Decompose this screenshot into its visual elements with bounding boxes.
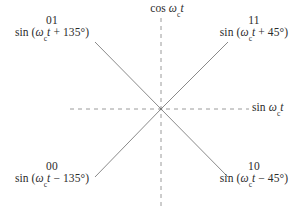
axis-sin-omega: ω <box>269 101 277 113</box>
axis-label-cos-vertical: cos ωct <box>131 2 203 17</box>
expr-11-prefix: sin ( <box>220 26 241 38</box>
quadrant-code-01: 01 <box>4 14 100 26</box>
axis-sin-variable: t <box>280 101 283 113</box>
expr-01-subscript: c <box>44 34 47 43</box>
quadrant-expression-11: sin (ωct + 45°) <box>202 26 306 41</box>
vector-00-line <box>95 109 161 177</box>
expr-10-suffix: − 45°) <box>255 172 288 184</box>
expr-11-subscript: c <box>249 34 252 43</box>
quadrant-code-00: 00 <box>4 160 100 172</box>
vector-01-line <box>95 42 161 109</box>
expr-01-suffix: + 135°) <box>50 26 89 38</box>
quadrant-label-10: 10 sin (ωct − 45°) <box>202 160 306 187</box>
quadrant-label-11: 11 sin (ωct + 45°) <box>202 14 306 41</box>
axis-label-sin-horizontal: sin ωct <box>252 101 284 116</box>
expr-00-prefix: sin ( <box>15 172 36 184</box>
expr-00-suffix: − 135°) <box>50 172 89 184</box>
axis-cos-prefix: cos <box>150 2 169 14</box>
origin-point <box>160 108 163 111</box>
expr-10-prefix: sin ( <box>220 172 241 184</box>
axis-sin-subscript: c <box>277 109 280 118</box>
axis-sin-prefix: sin <box>252 101 269 113</box>
axis-cos-subscript: c <box>177 10 180 19</box>
expr-11-omega: ω <box>240 26 248 38</box>
expr-00-subscript: c <box>44 180 47 189</box>
quadrant-code-10: 10 <box>202 160 306 172</box>
axis-cos-omega: ω <box>169 2 177 14</box>
expr-00-omega: ω <box>36 172 44 184</box>
vector-11-line <box>161 42 228 109</box>
quadrant-expression-01: sin (ωct + 135°) <box>4 26 100 41</box>
expr-11-suffix: + 45°) <box>255 26 288 38</box>
expr-10-omega: ω <box>240 172 248 184</box>
axis-cos-variable: t <box>180 2 183 14</box>
quadrant-code-11: 11 <box>202 14 306 26</box>
quadrant-expression-10: sin (ωct − 45°) <box>202 172 306 187</box>
expr-01-prefix: sin ( <box>15 26 36 38</box>
quadrant-expression-00: sin (ωct − 135°) <box>4 172 100 187</box>
quadrant-label-01: 01 sin (ωct + 135°) <box>4 14 100 41</box>
quadrant-label-00: 00 sin (ωct − 135°) <box>4 160 100 187</box>
expr-10-subscript: c <box>249 180 252 189</box>
expr-01-omega: ω <box>36 26 44 38</box>
qpsk-constellation-figure: cos ωct sin ωct 01 sin (ωct + 135°) 11 s… <box>0 0 308 211</box>
